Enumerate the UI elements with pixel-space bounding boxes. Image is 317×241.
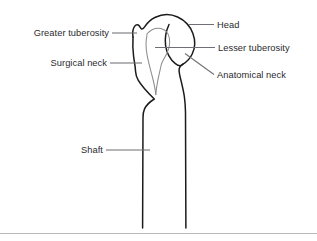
label-head: Head	[217, 20, 239, 30]
anatomical-neck-groove	[165, 25, 183, 66]
label-surgical-neck: Surgical neck	[51, 58, 108, 68]
anatomy-figure: Head Lesser tuberosity Anatomical neck G…	[0, 0, 317, 241]
medial-border-outline	[133, 37, 155, 228]
labels-group: Head Lesser tuberosity Anatomical neck G…	[34, 20, 290, 156]
label-lesser-tuberosity: Lesser tuberosity	[218, 43, 290, 53]
intertubercular-groove-medial-line	[146, 35, 156, 95]
bone-outline-group	[133, 15, 195, 228]
bone-inner-detail-group	[146, 28, 170, 94]
leader-lines-group	[106, 25, 215, 151]
humerus-diagram-canvas: Head Lesser tuberosity Anatomical neck G…	[0, 0, 317, 241]
label-greater-tuberosity: Greater tuberosity	[34, 28, 110, 38]
leader-line-anatomical-neck	[185, 54, 214, 75]
label-shaft: Shaft	[81, 145, 103, 155]
label-anatomical-neck: Anatomical neck	[217, 70, 286, 80]
intertubercular-groove-lateral-line	[156, 64, 162, 95]
